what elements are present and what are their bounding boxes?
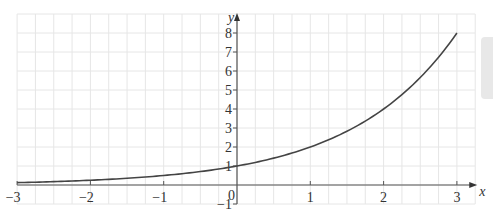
x-tick-label: 2	[380, 190, 387, 205]
origin-label: 0	[228, 188, 235, 203]
y-tick-label: 5	[225, 83, 232, 98]
side-panel-tab[interactable]	[481, 37, 493, 99]
y-tick-label: 3	[225, 121, 232, 136]
y-tick-label: 2	[225, 140, 232, 155]
y-tick-label: 7	[225, 45, 232, 60]
x-tick-label: −2	[79, 190, 94, 205]
x-tick-label: −3	[6, 190, 21, 205]
x-tick-label: −1	[152, 190, 167, 205]
x-tick-label: 1	[307, 190, 314, 205]
axis-ticks: −3−2−1123−112345678	[6, 26, 461, 212]
y-tick-label: 6	[225, 64, 232, 79]
x-axis-label: x	[478, 184, 486, 199]
x-tick-label: 3	[453, 190, 460, 205]
y-tick-label: 8	[225, 26, 232, 41]
grid	[17, 14, 475, 204]
y-axis-label: y	[226, 10, 235, 25]
y-tick-label: 4	[225, 102, 232, 117]
